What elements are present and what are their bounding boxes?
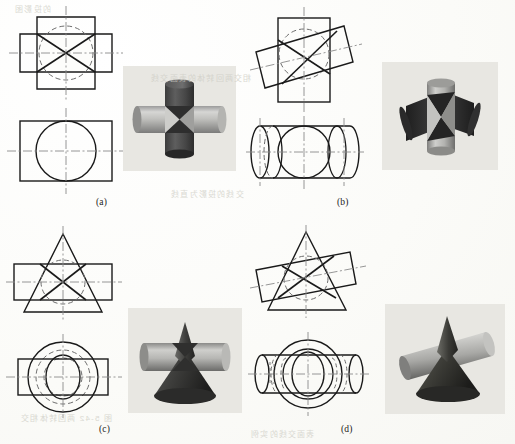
- panel-b-photo-model: [382, 62, 498, 170]
- panel-d-photo-model: [385, 304, 505, 414]
- front-view-intersection-lines: [278, 256, 336, 298]
- panel-b-orthographic-views: [240, 4, 376, 194]
- front-view-center-lines: [9, 6, 123, 100]
- photo-a-intersection-bowtie: [165, 106, 194, 133]
- photo-b-intersection-bowtie: [427, 92, 455, 141]
- panel-a-orthographic-views: [4, 4, 128, 194]
- front-view-center-lines: [250, 225, 366, 318]
- top-view-center-lines: [248, 332, 370, 416]
- panel-d-orthographic-views: [244, 222, 380, 418]
- front-view-center-lines: [250, 7, 362, 112]
- caption-a: (a): [96, 197, 107, 207]
- front-view-center-lines: [6, 226, 122, 320]
- bleed-text-2: 交线的投影为直线: [170, 188, 244, 199]
- bleed-text-1: 相交两回转体的表面交线: [150, 72, 251, 83]
- bleed-text-4: 表面交线的实例: [250, 428, 314, 439]
- panel-c-photo-model: [128, 308, 242, 413]
- caption-c: (c): [99, 424, 110, 434]
- caption-d: (d): [341, 424, 353, 434]
- caption-b: (b): [337, 197, 349, 207]
- top-view-center-lines: [6, 334, 122, 418]
- bleed-text-0: 的投影图: [14, 3, 51, 14]
- panel-c-orthographic-views: [4, 222, 128, 418]
- bleed-text-3: 图 5-42 两回转体相交: [20, 412, 112, 423]
